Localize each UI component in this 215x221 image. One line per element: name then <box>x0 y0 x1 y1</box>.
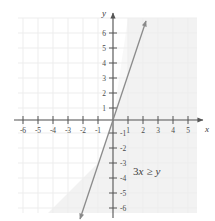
inequality-label: 3x≥y <box>133 165 160 177</box>
y-tick-label: 1 <box>102 104 106 113</box>
y-tick-label: 6 <box>102 29 106 38</box>
x-tick-label: -2 <box>80 126 86 135</box>
y-axis-label: y <box>101 8 106 18</box>
x-tick-label: 1 <box>126 126 130 135</box>
y-tick-label: -6 <box>120 204 126 213</box>
y-tick-label: 4 <box>102 59 106 68</box>
x-tick-label: 4 <box>171 126 175 135</box>
x-tick-label: -6 <box>20 126 26 135</box>
x-tick-label: 5 <box>186 126 190 135</box>
y-tick-label: -1 <box>120 129 126 138</box>
shaded-region <box>48 18 197 213</box>
y-tick-label: -5 <box>120 189 126 198</box>
x-tick-label: -5 <box>35 126 41 135</box>
graph-canvas: -6 -5 -4 -3 -2 -1 1 2 3 4 5 6 5 4 3 2 1 … <box>0 0 215 221</box>
x-axis-label: x <box>204 124 209 134</box>
coordinate-graph: -6 -5 -4 -3 -2 -1 1 2 3 4 5 6 5 4 3 2 1 … <box>0 0 215 221</box>
y-tick-label: 5 <box>102 44 106 53</box>
inequality-var-y: y <box>154 165 160 177</box>
x-tick-label: -1 <box>95 126 101 135</box>
y-tick-label: 2 <box>102 89 106 98</box>
x-tick-label: 3 <box>156 126 160 135</box>
y-tick-label: -2 <box>120 144 126 153</box>
x-tick-label: 2 <box>141 126 145 135</box>
inequality-var-x: x <box>138 165 144 177</box>
inequality-relation: ≥ <box>146 165 152 177</box>
y-tick-label: -4 <box>120 174 126 183</box>
x-tick-label: -4 <box>50 126 56 135</box>
x-tick-label: -3 <box>65 126 71 135</box>
y-tick-label: 3 <box>102 74 106 83</box>
y-tick-label: -3 <box>120 159 126 168</box>
